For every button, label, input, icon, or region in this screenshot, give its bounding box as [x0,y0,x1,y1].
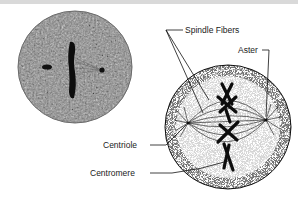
centriole-left [186,121,189,124]
centriole-right [264,118,267,121]
label-centriole: Centriole [103,141,137,150]
label-centromere: Centromere [90,169,135,178]
cell-drawing [150,30,291,189]
micrograph [18,11,133,124]
label-aster: Aster [238,46,258,55]
diagram-canvas [0,0,302,201]
label-spindle-fibers: Spindle Fibers [185,26,239,35]
centrosome-left [42,64,52,69]
centrosome-right [99,67,104,72]
